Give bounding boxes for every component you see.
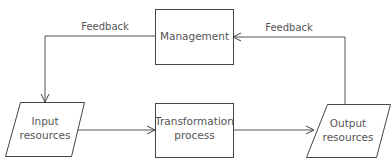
feedback-right-label: Feedback [265, 22, 313, 33]
input-label-line2: resources [20, 129, 71, 141]
edge-feedback-right: Feedback [233, 22, 345, 105]
feedback-right-connector [233, 37, 345, 105]
node-output-resources: Output resources [307, 105, 391, 158]
edge-input-to-transformation [78, 126, 155, 134]
flow-diagram: Feedback Feedback Management Input resou… [0, 0, 392, 168]
feedback-left-connector [45, 36, 155, 102]
management-label: Management [160, 30, 229, 42]
feedback-left-label: Feedback [81, 21, 129, 32]
output-label-line1: Output [330, 117, 366, 129]
transformation-label-line2: process [174, 129, 214, 141]
input-label-line1: Input [31, 115, 58, 127]
node-transformation-process: Transformation process [154, 104, 234, 158]
node-management: Management [156, 10, 234, 65]
node-input-resources: Input resources [6, 103, 85, 157]
transformation-label-line1: Transformation [154, 115, 234, 127]
edge-transformation-to-output [233, 126, 314, 134]
output-label-line2: resources [323, 131, 374, 143]
edge-feedback-left: Feedback [41, 21, 155, 102]
